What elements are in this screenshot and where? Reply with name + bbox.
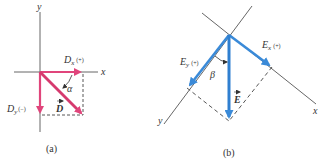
y-axis-rotated: [164, 6, 252, 124]
beta-label: β: [209, 69, 215, 80]
vector-components-diagram: y x α Dx(+) Dy(−) D (a) x y: [0, 0, 323, 168]
ey-label: Ey(+): [179, 56, 199, 69]
dashed-line: [187, 88, 229, 121]
dx-label: Dx(+): [63, 54, 84, 67]
panel-a: y x α Dx(+) Dy(−) D (a): [6, 1, 106, 155]
y-axis-label: y: [36, 1, 42, 12]
x-axis-label: x: [312, 105, 318, 116]
x-axis-label: x: [100, 66, 106, 77]
e-vector-label: E: [233, 94, 241, 105]
y-axis-label: y: [157, 115, 163, 126]
panel-b: x y β Ex(+) Ey(+) E (b): [157, 6, 318, 159]
caption-a: (a): [46, 143, 57, 155]
dy-label: Dy(−): [6, 103, 26, 116]
alpha-label: α: [67, 83, 73, 94]
beta-angle-arc: [215, 56, 227, 62]
ex-label: Ex(+): [261, 39, 281, 52]
caption-b: (b): [223, 147, 235, 159]
d-vector-label: D: [55, 103, 63, 114]
